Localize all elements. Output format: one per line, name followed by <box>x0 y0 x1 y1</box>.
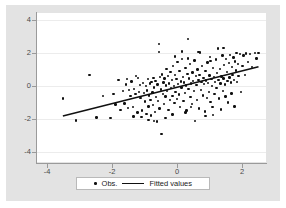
data-point <box>182 76 184 78</box>
data-point <box>150 114 152 116</box>
y-tick-label-2: 2 <box>7 49 31 57</box>
legend-label-obs: Obs. <box>102 179 118 188</box>
x-tick-label-0: 0 <box>165 168 189 176</box>
data-point <box>132 115 134 117</box>
legend-label-fitted: Fitted values <box>149 179 192 188</box>
data-point <box>145 113 147 115</box>
data-point <box>163 103 165 105</box>
data-point <box>222 47 224 49</box>
data-point <box>154 80 156 82</box>
y-tick-label-0: 0 <box>7 82 31 90</box>
data-point <box>167 75 169 77</box>
data-point <box>152 104 154 106</box>
data-point <box>176 61 178 63</box>
data-point <box>174 91 176 93</box>
data-point <box>174 74 176 76</box>
x-axis-line <box>36 163 267 164</box>
data-point <box>218 97 220 99</box>
data-point <box>239 53 241 55</box>
data-point <box>255 57 257 59</box>
chart-legend: Obs. Fitted values <box>76 177 210 190</box>
data-point <box>180 80 182 82</box>
data-point <box>237 75 239 77</box>
data-point <box>151 91 153 93</box>
x-tick-label--2: -2 <box>100 168 124 176</box>
data-point <box>210 78 212 80</box>
data-point <box>198 74 200 76</box>
fitted-line-icon <box>122 183 144 185</box>
data-point <box>215 58 217 60</box>
data-point <box>204 110 206 112</box>
data-point <box>156 120 158 122</box>
data-point <box>169 71 171 73</box>
data-point <box>191 71 193 73</box>
data-point <box>160 88 162 90</box>
data-point <box>235 69 237 71</box>
data-point <box>184 92 186 94</box>
data-point <box>213 93 215 95</box>
data-point <box>224 95 226 97</box>
data-point <box>181 50 183 52</box>
data-point <box>197 51 199 53</box>
data-point <box>254 52 256 54</box>
data-point <box>175 78 177 80</box>
data-point <box>211 106 213 108</box>
data-point <box>198 107 200 109</box>
data-layer <box>36 13 266 162</box>
data-point <box>206 97 208 99</box>
data-point <box>208 91 210 93</box>
data-point <box>161 73 163 75</box>
data-point <box>229 54 231 56</box>
data-point <box>164 117 166 119</box>
data-point <box>127 107 129 109</box>
data-point <box>171 113 173 115</box>
data-point <box>232 56 234 58</box>
data-point <box>221 54 223 56</box>
data-point <box>165 68 167 70</box>
data-point <box>185 84 187 86</box>
data-point <box>230 92 232 94</box>
data-point <box>189 96 191 98</box>
data-point <box>119 109 121 111</box>
data-point <box>154 111 156 113</box>
data-point <box>149 99 151 101</box>
data-point <box>227 101 229 103</box>
data-point <box>148 94 150 96</box>
data-point <box>182 100 184 102</box>
data-point <box>186 73 188 75</box>
data-point <box>176 98 178 100</box>
data-point <box>130 80 132 82</box>
data-point <box>114 103 116 105</box>
data-point <box>204 70 206 72</box>
data-point <box>160 133 162 135</box>
data-point <box>241 65 243 67</box>
data-point <box>117 79 119 81</box>
y-tick-label--2: -2 <box>7 115 31 123</box>
data-point <box>219 82 221 84</box>
data-point <box>226 80 228 82</box>
data-point <box>220 108 222 110</box>
data-point <box>123 102 125 104</box>
data-point <box>173 102 175 104</box>
data-point <box>193 90 195 92</box>
data-point <box>184 111 186 113</box>
data-point <box>146 89 148 91</box>
data-point <box>171 79 173 81</box>
data-point <box>178 70 180 72</box>
data-point <box>138 91 140 93</box>
data-point <box>224 83 226 85</box>
data-point <box>206 61 208 63</box>
data-point <box>136 111 138 113</box>
data-point <box>152 77 154 79</box>
data-point <box>144 100 146 102</box>
data-point <box>257 52 259 54</box>
data-point <box>204 115 206 117</box>
data-point <box>125 83 127 85</box>
data-point <box>109 117 111 119</box>
scatter-plot-figure: 420-2-4 -4-202 Obs. Fitted values <box>0 0 286 208</box>
data-point <box>62 97 64 99</box>
fitted-values-line <box>36 13 266 162</box>
data-point <box>95 116 97 118</box>
obs-marker-icon <box>94 182 97 185</box>
data-point <box>217 79 219 81</box>
